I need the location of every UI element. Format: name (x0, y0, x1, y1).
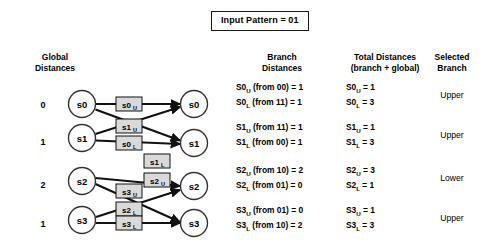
column-header-selected-branch: Selected Branch (424, 52, 480, 74)
trellis-right-nodes: s0 s1 s2 s3 (181, 91, 208, 237)
global-distance-value-s1: 1 (31, 137, 55, 147)
branch-distance-row2-lower-name: S2 (236, 180, 246, 190)
node-left-s1-label: s1 (77, 133, 88, 144)
total-distance-row1-lower-rest: = 3 (360, 137, 374, 147)
total-distance-row2-lower-rest: = 1 (360, 180, 374, 190)
total-distance-row0-upper: S0U = 1 (346, 82, 375, 96)
branch-label-s0u-sub: U (133, 105, 137, 111)
branch-label-s1u: s1 U (116, 119, 142, 133)
branch-distance-row1-upper-name: S1 (236, 122, 246, 132)
branch-distance-row0-lower: S0L (from 11) = 1 (236, 97, 302, 111)
node-right-s1-label: s1 (189, 138, 200, 149)
branch-label-s0l-text: s0 (122, 140, 131, 149)
node-left-s2-label: s2 (77, 176, 88, 187)
selected-branch-row2: Lower (424, 173, 480, 184)
total-distance-row2-lower-name: S2 (346, 180, 356, 190)
total-distance-row3-upper-name: S3 (346, 205, 356, 215)
branch-label-s3u-text: s3 (122, 188, 131, 197)
selected-branch-row0: Upper (424, 90, 480, 101)
branch-label-s1l-text: s1 (150, 158, 159, 167)
total-distance-row3-upper: S3U = 1 (346, 205, 375, 219)
total-distance-row2-upper-name: S2 (346, 165, 356, 175)
selected-branch-row1: Upper (424, 130, 480, 141)
global-distance-value-s0: 0 (31, 100, 55, 110)
column-header-selected-branch-line2: Branch (424, 63, 480, 74)
total-distance-row2-upper: S2U = 3 (346, 165, 375, 179)
trellis-branch-labels: s0 U s1 U s0 L s1 L s2 U s3 (116, 97, 170, 230)
branch-distance-row3-upper: S3U (from 01) = 0 (236, 205, 303, 219)
branch-distance-row0-upper-name: S0 (236, 82, 246, 92)
total-distance-row1-lower: S1L = 3 (346, 137, 374, 151)
branch-distance-row3-lower: S3L (from 10) = 2 (236, 220, 302, 234)
branch-label-s3l-text: s3 (122, 220, 131, 229)
branch-distance-row1-upper: S1U (from 11) = 1 (236, 122, 303, 136)
branch-label-s0l: s0 L (116, 136, 142, 150)
branch-distance-row1-upper-rest: (from 11) = 1 (251, 122, 303, 132)
total-distance-row3-lower: S3L = 3 (346, 220, 374, 234)
branch-label-s2l-text: s2 (122, 206, 131, 215)
total-distance-row1-upper: S1U = 1 (346, 122, 375, 136)
branch-label-s2u-sub: U (161, 181, 165, 187)
total-distance-row3-upper-rest: = 1 (361, 205, 375, 215)
branch-label-s2l: s2 L (116, 202, 142, 216)
input-pattern-box: Input Pattern = 01 (211, 11, 309, 31)
branch-distance-row2-upper: S2U (from 10) = 2 (236, 165, 303, 179)
node-left-s3-label: s3 (77, 215, 88, 226)
column-header-branch-distances-line1: Branch (236, 52, 328, 63)
branch-distance-row0-lower-name: S0 (236, 97, 246, 107)
selected-branch-row3: Upper (424, 213, 480, 224)
branch-label-s3u: s3 U (116, 184, 142, 198)
trellis-left-nodes: s0 s1 s2 s3 (69, 91, 96, 234)
node-left-s0-label: s0 (77, 99, 88, 110)
branch-label-s1l: s1 L (144, 154, 170, 168)
total-distance-row3-lower-rest: = 3 (360, 220, 374, 230)
branch-label-s0u: s0 U (116, 97, 142, 111)
branch-distance-row3-upper-name: S3 (236, 205, 246, 215)
column-header-branch-distances-line2: Distances (236, 63, 328, 74)
branch-distance-row1-lower-name: S1 (236, 137, 246, 147)
node-right-s2-label: s2 (189, 181, 200, 192)
branch-distance-row3-lower-rest: (from 10) = 2 (250, 220, 302, 230)
branch-distance-row1-lower: S1L (from 00) = 1 (236, 137, 302, 151)
branch-distance-row2-lower-rest: (from 01) = 0 (250, 180, 302, 190)
branch-distance-row2-lower: S2L (from 01) = 0 (236, 180, 302, 194)
input-pattern-label: Input Pattern = 01 (221, 15, 299, 25)
column-header-branch-distances: Branch Distances (236, 52, 328, 74)
node-right-s0-label: s0 (189, 99, 200, 110)
total-distance-row0-lower-rest: = 3 (360, 97, 374, 107)
total-distance-row0-upper-name: S0 (346, 82, 356, 92)
total-distance-row0-lower: S0L = 3 (346, 97, 374, 111)
global-distances-header-line1: Global (22, 52, 88, 63)
total-distance-row0-lower-name: S0 (346, 97, 356, 107)
global-distance-value-s3: 1 (31, 219, 55, 229)
column-header-selected-branch-line1: Selected (424, 52, 480, 63)
total-distance-row1-lower-name: S1 (346, 137, 356, 147)
branch-distance-row0-upper-rest: (from 00) = 1 (251, 82, 303, 92)
branch-label-s0u-text: s0 (122, 101, 131, 110)
branch-distance-row0-lower-rest: (from 11) = 1 (250, 97, 302, 107)
total-distance-row3-lower-name: S3 (346, 220, 356, 230)
trellis-diagram: s0 s1 s2 s3 s0 s1 s2 s3 s0 U s1 U s0 (60, 80, 216, 245)
branch-distance-row3-upper-rest: (from 01) = 0 (251, 205, 303, 215)
branch-distance-row1-lower-rest: (from 00) = 1 (250, 137, 302, 147)
branch-label-s1u-sub: U (133, 127, 137, 133)
node-right-s3-label: s3 (189, 218, 200, 229)
global-distances-header: Global Distances (22, 52, 88, 74)
branch-distance-row3-lower-name: S3 (236, 220, 246, 230)
branch-label-s2u: s2 U (144, 173, 170, 187)
total-distance-row0-upper-rest: = 1 (361, 82, 375, 92)
branch-distance-row0-upper: S0U (from 00) = 1 (236, 82, 303, 96)
total-distance-row1-upper-rest: = 1 (361, 122, 375, 132)
total-distance-row2-lower: S2L = 1 (346, 180, 374, 194)
total-distance-row1-upper-name: S1 (346, 122, 356, 132)
branch-label-s3u-sub: U (133, 192, 137, 198)
branch-label-s3l: s3 L (116, 216, 142, 230)
branch-label-s1u-text: s1 (122, 123, 131, 132)
branch-distance-row2-upper-name: S2 (236, 165, 246, 175)
branch-label-s2u-text: s2 (150, 177, 159, 186)
global-distances-header-line2: Distances (22, 63, 88, 74)
total-distance-row2-upper-rest: = 3 (361, 165, 375, 175)
branch-distance-row2-upper-rest: (from 10) = 2 (251, 165, 303, 175)
global-distance-value-s2: 2 (31, 180, 55, 190)
